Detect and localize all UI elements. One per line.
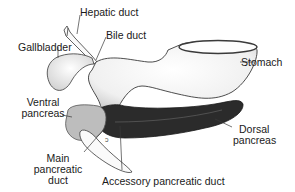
pancreas-development-diagram: ↄ Hepatic duct Bile duct Gallbladder Sto… — [0, 0, 295, 192]
svg-text:ↄ: ↄ — [105, 136, 109, 143]
label-main-pancreatic-duct: Main pancreatic duct — [30, 153, 86, 186]
label-ventral-pancreas: Ventral pancreas — [18, 97, 68, 119]
label-hepatic-duct: Hepatic duct — [80, 7, 138, 18]
stomach-opening — [179, 41, 257, 54]
label-gallbladder: Gallbladder — [18, 42, 72, 53]
label-bile-duct: Bile duct — [106, 30, 146, 41]
label-accessory-pancreatic-duct: Accessory pancreatic duct — [102, 176, 225, 187]
gallbladder — [47, 54, 94, 91]
label-dorsal-pancreas: Dorsal pancreas — [233, 124, 276, 146]
label-stomach: Stomach — [241, 57, 282, 68]
